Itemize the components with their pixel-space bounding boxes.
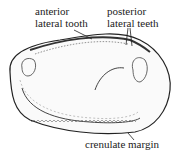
label-line: lateral tooth	[35, 17, 88, 29]
label-line: posterior	[107, 5, 159, 17]
crenulate-margin-label: crenulate margin	[85, 138, 159, 150]
posterior-lateral-teeth-label: posterior lateral teeth	[107, 5, 159, 29]
anterior-lateral-tooth-label: anterior lateral tooth	[35, 5, 88, 29]
label-line: lateral teeth	[107, 17, 159, 29]
label-line: anterior	[35, 5, 88, 17]
